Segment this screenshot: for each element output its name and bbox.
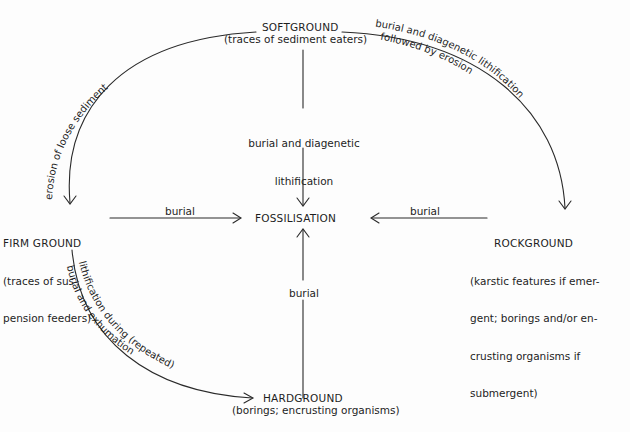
edge-label-burial-right: burial [410, 205, 440, 218]
node-hardground-title: HARDGROUND [263, 392, 343, 405]
node-firmground-subtitle: pension feeders) [3, 312, 91, 325]
node-rockground-subtitle: submergent) [470, 387, 600, 400]
node-softground-subtitle: (traces of sediment eaters) [224, 33, 367, 46]
node-firmground-subtitle: (traces of sus- [3, 275, 91, 288]
edge-soft-to-firm [69, 32, 256, 203]
node-softground-title: SOFTGROUND [262, 21, 339, 34]
edge-label-burial-bottom: burial [289, 287, 319, 300]
edge-label-line: lithification [246, 175, 362, 188]
edge-label-burial-diagenetic-center: burial and diagenetic lithification [246, 112, 362, 212]
node-rockground-subtitle: crusting organisms if [470, 350, 600, 363]
edge-label-burial-left: burial [165, 205, 195, 218]
edge-label-erosion: erosion of loose sediment [43, 81, 110, 200]
node-rockground-subtitle: (karstic features if emer- [470, 275, 600, 288]
node-firmground: FIRM GROUND (traces of sus- pension feed… [3, 212, 91, 350]
node-firmground-title: FIRM GROUND [3, 237, 91, 250]
node-rockground-title: ROCKGROUND [470, 237, 600, 250]
edge-label-line: burial and diagenetic [246, 137, 362, 150]
node-fossilisation: FOSSILISATION [255, 212, 336, 225]
node-rockground: ROCKGROUND (karstic features if emer- ge… [470, 212, 600, 425]
fossilisation-diagram: erosion of loose sediment burial and dia… [0, 0, 630, 432]
node-hardground-subtitle: (borings; encrusting organisms) [232, 404, 400, 417]
node-rockground-subtitle: gent; borings and/or en- [470, 312, 600, 325]
